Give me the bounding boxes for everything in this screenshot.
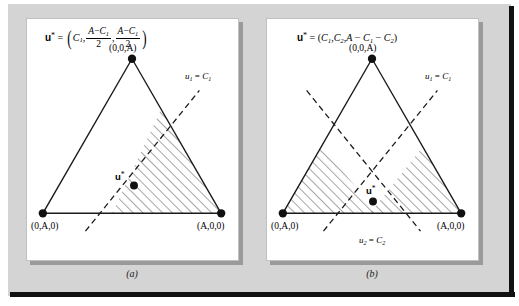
vertex-left-b <box>279 209 287 217</box>
vertex-top-a <box>128 55 136 63</box>
vertex-label-left-a: (0,A,0) <box>31 221 58 231</box>
figure-root: u* = (C1,A−C12,A−C12) (0,0,A) (0,A,0) (A… <box>0 0 519 306</box>
formula-b: u* = (C1,C2,A − C1 − C2) <box>297 31 397 44</box>
formula-b-term3-minus2: − <box>376 32 382 43</box>
formula-a-comma2: , <box>112 32 115 43</box>
formula-a-equals: = <box>58 32 64 43</box>
optimum-label-b-star: * <box>372 184 376 193</box>
optimum-label-a: u* <box>115 170 125 182</box>
frame-shadow-right <box>509 6 514 297</box>
vertex-left-a <box>39 209 47 217</box>
vertex-label-left-b: (0,A,0) <box>271 221 298 231</box>
constraint-label-u1-a-var-sub: 1 <box>190 76 193 82</box>
constraint-label-u2-b-value-sub: 2 <box>382 240 385 246</box>
formula-b-term3-b: C <box>363 32 370 43</box>
caption-a: (a) <box>112 268 152 279</box>
vertex-label-top-a: (0,0,A) <box>109 43 136 53</box>
frame-shadow-bottom <box>10 292 515 297</box>
constraint-label-u1-a: u1 = C1 <box>185 71 211 82</box>
formula-a-open-paren: ( <box>67 29 71 48</box>
formula-b-equals: = <box>310 32 316 43</box>
formula-b-term1: C <box>321 32 328 43</box>
hatched-region-b-right <box>370 69 478 214</box>
panel-b: u* = (C1,C2,A − C1 − C2) (0,0,A) (0,A,0)… <box>266 18 479 261</box>
constraint-label-u1-a-value-sub: 1 <box>208 76 211 82</box>
hatched-region-b-left <box>267 69 378 214</box>
hatched-region-a <box>112 79 235 214</box>
optimum-point-b <box>369 197 377 205</box>
caption-b: (b) <box>352 268 392 279</box>
formula-a-frac1: A−C12 <box>86 27 111 50</box>
constraint-label-u1-b: u1 = C1 <box>425 71 451 82</box>
constraint-label-u2-b-var-sub: 2 <box>364 240 367 246</box>
constraint-label-u1-b-value-sub: 1 <box>448 76 451 82</box>
formula-b-term3-minus1: − <box>355 32 361 43</box>
formula-b-term3-a: A <box>346 32 352 43</box>
vertex-label-top-b: (0,0,A) <box>349 43 376 53</box>
constraint-label-u2-b: u2 = C2 <box>359 235 385 246</box>
optimum-label-b: u* <box>366 184 376 196</box>
formula-a-frac2-num-b-sub: 1 <box>135 30 138 37</box>
constraint-label-u1-b-equals: = <box>435 71 440 81</box>
vertex-top-b <box>368 55 376 63</box>
formula-b-star: * <box>303 31 307 40</box>
optimum-label-a-star: * <box>121 170 125 179</box>
panel-a: u* = (C1,A−C12,A−C12) (0,0,A) (0,A,0) (A… <box>26 18 239 261</box>
formula-a-frac1-den: 2 <box>86 40 111 50</box>
formula-a-comma1: , <box>83 32 86 43</box>
vertex-right-a <box>217 209 225 217</box>
formula-b-close-paren: ) <box>394 32 397 43</box>
vertex-label-right-b: (A,0,0) <box>437 221 464 231</box>
constraint-label-u2-b-equals: = <box>369 235 374 245</box>
formula-a-close-paren: ) <box>143 29 147 48</box>
formula-a-frac1-num-b-sub: 1 <box>106 30 109 37</box>
vertex-label-right-a: (A,0,0) <box>197 221 224 231</box>
optimum-point-a <box>130 182 138 190</box>
constraint-label-u1-a-equals: = <box>195 71 200 81</box>
vertex-right-b <box>457 209 465 217</box>
formula-a-star: * <box>51 31 55 40</box>
constraint-label-u1-b-var-sub: 1 <box>430 76 433 82</box>
